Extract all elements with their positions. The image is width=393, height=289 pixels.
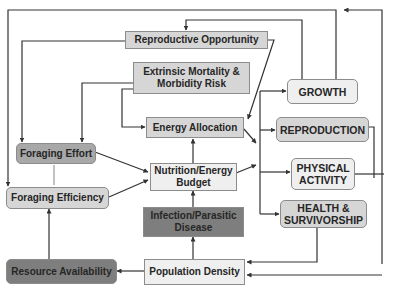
node-label: Population Density (149, 266, 240, 278)
node-reproductive-opportunity: Reproductive Opportunity (125, 31, 268, 49)
node-population-density: Population Density (144, 259, 245, 285)
node-reproduction: REPRODUCTION (276, 117, 369, 142)
node-nutrition-energy-budget: Nutrition/Energy Budget (150, 163, 237, 191)
node-label: REPRODUCTION (280, 124, 365, 136)
node-physical-activity: PHYSICAL ACTIVITY (291, 158, 355, 190)
node-label: Nutrition/Energy Budget (154, 165, 232, 189)
node-label: Reproductive Opportunity (135, 34, 259, 46)
node-label: PHYSICAL ACTIVITY (297, 162, 350, 186)
node-infection-parasitic-disease: Infection/Parasitic Disease (143, 207, 244, 237)
node-label: Extrinsic Mortality & Morbidity Risk (140, 66, 243, 90)
node-label: Foraging Efficiency (11, 192, 104, 204)
node-foraging-efficiency: Foraging Efficiency (6, 187, 109, 209)
node-energy-allocation: Energy Allocation (146, 117, 244, 138)
node-label: Energy Allocation (153, 122, 238, 134)
node-resource-availability: Resource Availability (6, 259, 117, 284)
node-label: Infection/Parasitic Disease (150, 210, 237, 234)
node-foraging-effort: Foraging Effort (16, 143, 96, 164)
node-growth: GROWTH (287, 79, 358, 104)
node-label: HEALTH & SURVIVORSHIP (284, 202, 363, 226)
node-extrinsic-mortality: Extrinsic Mortality & Morbidity Risk (133, 62, 250, 94)
node-label: GROWTH (299, 86, 347, 98)
diagram-canvas: Reproductive Opportunity Extrinsic Morta… (0, 0, 393, 289)
node-label: Foraging Effort (20, 148, 92, 160)
node-health-survivorship: HEALTH & SURVIVORSHIP (280, 200, 367, 228)
node-label: Resource Availability (11, 266, 111, 278)
